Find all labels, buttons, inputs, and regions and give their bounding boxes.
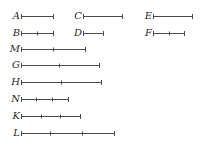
segment-d <box>83 31 104 36</box>
segment-label-k: K <box>8 111 20 121</box>
segment-label-b: B <box>8 28 20 38</box>
segment-label-f: F <box>140 28 152 38</box>
segment-c <box>83 14 123 19</box>
segment-label-c: C <box>70 11 82 21</box>
segments-canvas <box>0 0 202 150</box>
segment-f <box>153 31 185 36</box>
segment-label-a: A <box>8 11 20 21</box>
segment-label-m: M <box>8 44 20 54</box>
segment-label-l: L <box>8 128 20 138</box>
segment-label-n: N <box>8 94 20 104</box>
segment-label-h: H <box>8 77 20 87</box>
segment-g <box>21 63 100 68</box>
segment-label-g: G <box>8 60 20 70</box>
segment-m <box>21 47 86 52</box>
segment-a <box>21 14 54 19</box>
segment-l <box>21 131 115 136</box>
segment-e <box>153 14 193 19</box>
segment-b <box>21 31 54 36</box>
segment-h <box>21 80 102 85</box>
segment-label-e: E <box>140 11 152 21</box>
segment-label-d: D <box>70 28 82 38</box>
segment-n <box>21 97 69 102</box>
segment-k <box>21 114 81 119</box>
